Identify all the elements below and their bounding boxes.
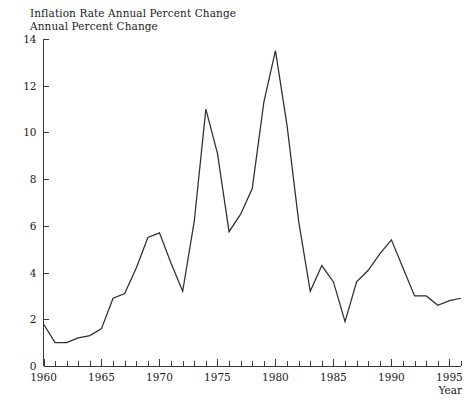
x-tick-marks	[45, 359, 462, 366]
x-tick-label: 1975	[197, 372, 237, 382]
inflation-rate-series-line	[44, 51, 462, 343]
y-tick-label: 14	[11, 34, 37, 44]
y-tick-label: 6	[11, 221, 37, 231]
x-tick-label: 1985	[313, 372, 353, 382]
x-tick-label: 1965	[81, 372, 121, 382]
y-tick-label: 4	[11, 268, 37, 278]
y-tick-label: 10	[11, 127, 37, 137]
chart-plot-area	[0, 0, 473, 409]
inflation-rate-chart-figure: Inflation Rate Annual Percent Change Ann…	[0, 0, 473, 409]
y-tick-label: 2	[11, 314, 37, 324]
x-tick-label: 1990	[371, 372, 411, 382]
y-tick-label: 12	[11, 81, 37, 91]
x-axis-title: Year	[438, 385, 462, 396]
y-tick-label: 8	[11, 174, 37, 184]
x-tick-label: 1960	[24, 372, 64, 382]
x-tick-label: 1980	[255, 372, 295, 382]
y-tick-marks	[44, 40, 49, 367]
x-tick-label: 1970	[139, 372, 179, 382]
x-tick-label: 1995	[429, 372, 469, 382]
y-tick-label: 0	[11, 361, 37, 371]
